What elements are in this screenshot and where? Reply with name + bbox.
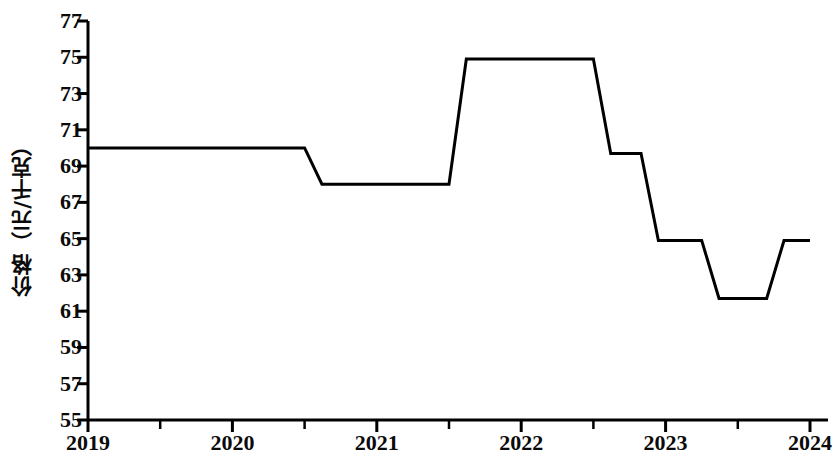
x-axis-tick-label: 2021 — [355, 432, 399, 454]
data-series-line — [88, 59, 810, 298]
x-axis-tick-label: 2023 — [644, 432, 688, 454]
x-axis-ticks — [88, 420, 810, 432]
y-axis-ticks — [77, 21, 88, 420]
x-axis-tick-label: 2019 — [66, 432, 110, 454]
line-chart: 价格（元/千克） 555759616365676971737577 201920… — [0, 0, 838, 464]
x-axis-tick-label: 2020 — [210, 432, 254, 454]
axis-lines — [88, 21, 828, 420]
plot-area — [0, 0, 838, 464]
x-axis-tick-label: 2022 — [499, 432, 543, 454]
x-axis-tick-label: 2024 — [788, 432, 832, 454]
